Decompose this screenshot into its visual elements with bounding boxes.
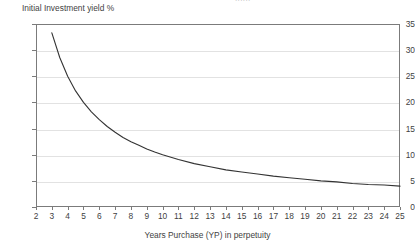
x-tick-label: 25 [395, 211, 404, 221]
y-tick-label: 30 [385, 45, 415, 55]
y-tick-mark [32, 76, 36, 77]
x-tick-mark [115, 207, 116, 210]
chart-root: ...... Initial Investment yield % 051015… [0, 0, 415, 246]
y-tick-mark [32, 181, 36, 182]
x-tick-label: 8 [129, 211, 134, 221]
x-tick-label: 17 [269, 211, 278, 221]
y-tick-mark [32, 24, 36, 25]
x-tick-label: 12 [190, 211, 199, 221]
x-tick-label: 10 [158, 211, 167, 221]
x-tick-label: 20 [316, 211, 325, 221]
x-tick-label: 7 [113, 211, 118, 221]
x-tick-label: 15 [237, 211, 246, 221]
x-tick-label: 24 [380, 211, 389, 221]
y-tick-label: 35 [385, 19, 415, 29]
x-tick-mark [52, 207, 53, 210]
x-tick-mark [305, 207, 306, 210]
x-tick-label: 21 [332, 211, 341, 221]
x-tick-label: 18 [285, 211, 294, 221]
x-tick-mark [226, 207, 227, 210]
x-tick-mark [163, 207, 164, 210]
x-tick-mark [353, 207, 354, 210]
x-tick-mark [68, 207, 69, 210]
x-tick-mark [131, 207, 132, 210]
y-tick-label: 20 [385, 97, 415, 107]
x-tick-mark [147, 207, 148, 210]
x-tick-mark [337, 207, 338, 210]
y-tick-mark [32, 129, 36, 130]
x-tick-mark [273, 207, 274, 210]
y-tick-mark [32, 102, 36, 103]
x-tick-label: 14 [221, 211, 230, 221]
y-tick-mark [32, 155, 36, 156]
x-tick-mark [400, 207, 401, 210]
y-tick-label: 5 [385, 176, 415, 186]
x-tick-label: 13 [205, 211, 214, 221]
x-tick-label: 16 [253, 211, 262, 221]
x-tick-mark [289, 207, 290, 210]
x-tick-mark [242, 207, 243, 210]
x-tick-mark [258, 207, 259, 210]
x-axis-title: Years Purchase (YP) in perpetuity [0, 230, 415, 240]
x-tick-label: 19 [300, 211, 309, 221]
x-tick-mark [384, 207, 385, 210]
x-tick-mark [194, 207, 195, 210]
x-tick-mark [210, 207, 211, 210]
x-tick-mark [368, 207, 369, 210]
y-axis-title: Initial Investment yield % [22, 3, 114, 13]
y-tick-label: 10 [385, 150, 415, 160]
x-tick-mark [36, 207, 37, 210]
x-tick-mark [321, 207, 322, 210]
x-tick-mark [178, 207, 179, 210]
x-tick-label: 2 [34, 211, 39, 221]
x-tick-label: 5 [81, 211, 86, 221]
x-tick-label: 23 [364, 211, 373, 221]
y-tick-mark [32, 50, 36, 51]
x-tick-mark [83, 207, 84, 210]
x-tick-label: 3 [49, 211, 54, 221]
series-curve [36, 24, 400, 207]
x-tick-label: 4 [65, 211, 70, 221]
cropped-top-text: ...... [235, 0, 251, 3]
x-tick-mark [99, 207, 100, 210]
x-tick-label: 6 [97, 211, 102, 221]
y-tick-label: 25 [385, 71, 415, 81]
x-tick-label: 11 [174, 211, 183, 221]
y-tick-label: 15 [385, 124, 415, 134]
x-tick-label: 9 [144, 211, 149, 221]
x-tick-label: 22 [348, 211, 357, 221]
